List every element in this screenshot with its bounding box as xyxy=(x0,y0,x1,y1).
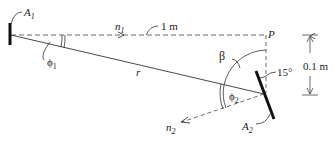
label-phi1: ϕ1 xyxy=(47,56,57,71)
label-phi2: ϕ2 xyxy=(229,90,239,105)
label-a1: A1 xyxy=(23,6,35,21)
label-beta: β xyxy=(219,49,225,63)
label-n2: n2 xyxy=(166,121,176,136)
view-factor-diagram: A1 n1 1 m P ϕ1 r β 15° 0.1 m ϕ2 n2 A2 xyxy=(0,0,335,144)
label-a2: A2 xyxy=(241,120,253,135)
label-point-p: P xyxy=(267,28,275,40)
diagram-canvas: A1 n1 1 m P ϕ1 r β 15° 0.1 m ϕ2 n2 A2 xyxy=(0,0,335,144)
label-distance-horizontal: 1 m xyxy=(161,20,178,32)
label-distance-vertical: 0.1 m xyxy=(303,60,329,72)
label-angle-15: 15° xyxy=(277,66,292,78)
surface-a2 xyxy=(256,71,274,119)
label-r: r xyxy=(136,66,141,78)
label-n1: n1 xyxy=(115,20,125,35)
